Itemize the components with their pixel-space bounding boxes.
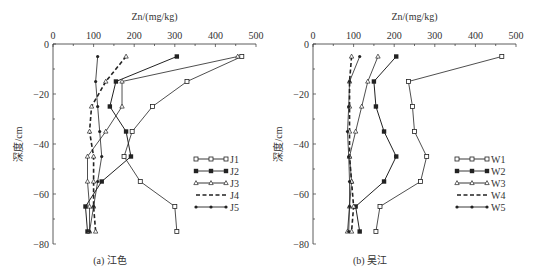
legend-label: J1 [230, 154, 239, 165]
x-tick-label: 500 [249, 30, 264, 41]
x-tick-label: 0 [51, 30, 56, 41]
legend-item-J2: J2 [194, 166, 239, 177]
y-tick-label: −80 [33, 239, 49, 250]
legend-item-J3: J3 [194, 178, 239, 189]
legend-label: J4 [230, 190, 239, 201]
legend-label: W4 [491, 190, 505, 201]
legend-item-J4: J4 [196, 190, 239, 201]
legend-item-J5: J5 [194, 202, 239, 213]
panel-caption: (a) 江色 [93, 254, 127, 267]
y-tick-label: −40 [33, 139, 49, 150]
x-tick-label: 500 [509, 30, 524, 41]
chart-panel-a: 01002003004005000−20−40−60−80Zn/(mg/kg)深… [12, 11, 264, 267]
y-tick-label: −40 [293, 139, 309, 150]
x-tick-label: 300 [167, 30, 182, 41]
chart-panel-b: 01002003004005000−20−40−60−80Zn/(mg/kg)深… [272, 11, 524, 267]
chart-figure: 01002003004005000−20−40−60−80Zn/(mg/kg)深… [0, 0, 541, 275]
y-axis-title: 深度/cm [12, 126, 24, 161]
y-tick-label: 0 [44, 39, 49, 50]
series-J2 [83, 54, 179, 233]
x-tick-label: 0 [311, 30, 316, 41]
legend-label: J3 [230, 178, 239, 189]
x-axis-title: Zn/(mg/kg) [391, 11, 437, 23]
x-tick-label: 300 [427, 30, 442, 41]
legend-label: J5 [230, 202, 239, 213]
x-tick-label: 100 [86, 30, 101, 41]
legend-label: W3 [491, 178, 505, 189]
panel-caption: (b) 吴江 [353, 255, 387, 267]
y-tick-label: −80 [293, 239, 309, 250]
x-tick-label: 400 [468, 30, 483, 41]
y-axis-title: 深度/cm [272, 126, 284, 161]
y-tick-label: −60 [33, 189, 49, 200]
legend-item-J1: J1 [194, 154, 239, 165]
x-tick-label: 200 [387, 30, 402, 41]
x-tick-label: 100 [346, 30, 361, 41]
legend-item-W1: W1 [455, 154, 505, 165]
legend-item-W5: W5 [455, 202, 505, 213]
x-tick-label: 400 [208, 30, 223, 41]
y-tick-label: −20 [33, 89, 49, 100]
legend-label: J2 [230, 166, 239, 177]
legend-item-W2: W2 [455, 166, 506, 177]
y-tick-label: 0 [304, 39, 309, 50]
legend-label: W5 [491, 202, 505, 213]
legend-label: W1 [491, 154, 505, 165]
legend-label: W2 [491, 166, 505, 177]
y-tick-label: −60 [293, 189, 309, 200]
x-tick-label: 200 [127, 30, 142, 41]
x-axis-title: Zn/(mg/kg) [131, 11, 177, 23]
legend-item-W3: W3 [455, 178, 506, 189]
legend-item-W4: W4 [457, 190, 505, 201]
series-W2 [353, 54, 398, 233]
y-tick-label: −20 [293, 89, 309, 100]
series-J3 [85, 54, 240, 233]
